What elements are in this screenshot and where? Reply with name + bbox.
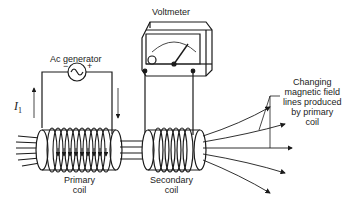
primary-coil-label: Primary coil xyxy=(64,175,95,195)
current-label: I1 xyxy=(14,99,22,115)
generator-plus: + xyxy=(87,61,92,71)
secondary-circuit-wire xyxy=(145,71,193,135)
primary-coil xyxy=(36,128,122,172)
voltmeter-label: Voltmeter xyxy=(152,7,190,17)
secondary-coil-label: Secondary coil xyxy=(150,175,193,195)
generator-label: Ac generator xyxy=(50,54,102,64)
secondary-coil xyxy=(142,128,206,172)
field-lines-label: Changing magnetic field lines produced b… xyxy=(283,77,342,127)
voltmeter-icon xyxy=(142,22,212,76)
primary-circuit-wire xyxy=(42,72,68,128)
field-lines xyxy=(203,107,292,193)
generator-minus: − xyxy=(63,61,68,71)
